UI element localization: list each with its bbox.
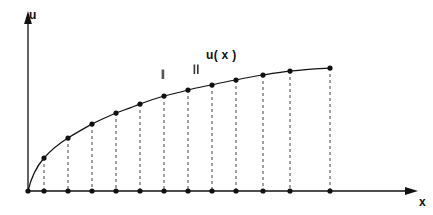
curve-node <box>161 93 166 98</box>
x-axis-dot <box>65 188 70 193</box>
curve-node-group <box>41 65 332 160</box>
x-axis-arrow-icon <box>405 187 418 195</box>
curve-node <box>137 101 142 106</box>
x-axis-dot <box>41 188 46 193</box>
x-axis-dot <box>233 188 238 193</box>
x-axis-dot <box>287 188 292 193</box>
dropline-group <box>44 68 330 191</box>
x-axis-dot <box>260 188 265 193</box>
curve-node <box>65 135 70 140</box>
x-axis-dot <box>113 188 118 193</box>
function-curve <box>28 68 330 191</box>
plot-canvas <box>0 0 433 215</box>
curve-node <box>209 82 214 87</box>
curve-label: u( x ) <box>206 48 236 62</box>
curve-node <box>89 121 94 126</box>
curve-node <box>113 110 118 115</box>
curve-node <box>327 65 332 70</box>
curve-node <box>233 77 238 82</box>
y-axis-label: u <box>29 9 36 21</box>
curve-node <box>41 155 46 160</box>
x-axis-label: x <box>419 196 426 208</box>
curve-node <box>185 87 190 92</box>
curve-node <box>260 72 265 77</box>
break-mark-1 <box>162 70 165 80</box>
x-axis-dot <box>209 188 214 193</box>
x-axis-dot <box>161 188 166 193</box>
x-axis-dot <box>89 188 94 193</box>
curve-node <box>287 68 292 73</box>
x-axis-dot <box>137 188 142 193</box>
break-mark-2 <box>194 65 199 75</box>
x-axis-dot <box>25 188 30 193</box>
x-axis-dot <box>327 188 332 193</box>
function-plot-figure: u x u( x ) <box>0 0 433 215</box>
x-axis-dot <box>185 188 190 193</box>
